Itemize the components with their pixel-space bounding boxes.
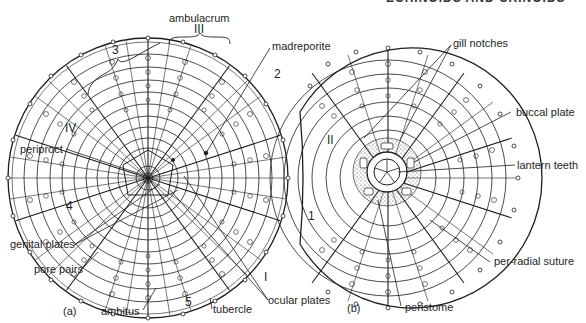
label-interambulacrum-1: 1: [308, 210, 315, 223]
label-ambitus: ambitus: [101, 305, 140, 317]
label-periproct: periproct: [20, 143, 63, 155]
label-ambulacrum-IV: IV: [65, 122, 76, 135]
label-per-radial-suture: per-radial suture: [494, 255, 574, 267]
label-madreporite: madreporite: [272, 40, 331, 52]
panel-a-caption: (a): [63, 305, 76, 317]
label-interambulacrum-3: 3: [112, 44, 119, 57]
panel-b-oral-view: [270, 45, 542, 310]
label-ocular-plates: ocular plates: [268, 294, 330, 306]
label-interambulacrum-5: 5: [185, 296, 192, 309]
label-interambulacrum-2: 2: [274, 68, 281, 81]
label-genital-plates: genital plates: [10, 238, 75, 250]
label-buccal-plate: buccal plate: [516, 106, 575, 118]
label-tubercle: tubercle: [213, 303, 252, 315]
label-peristome: peristome: [405, 301, 453, 313]
label-interambulacrum-4: 4: [66, 200, 73, 213]
label-gill-notches: gill notches: [453, 37, 508, 49]
panel-a-aboral-view: [6, 33, 290, 320]
label-lantern-teeth: lantern teeth: [517, 159, 578, 171]
panel-b-caption: (b): [347, 302, 360, 314]
label-ambulacrum-III: III: [194, 23, 204, 36]
label-pore-pairs: pore pairs: [34, 263, 83, 275]
label-ambulacrum-II: II: [327, 134, 334, 147]
label-ambulacrum-I: I: [264, 271, 267, 284]
